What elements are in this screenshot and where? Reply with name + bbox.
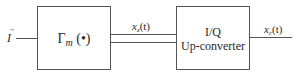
xc-arg: (t) <box>272 23 282 35</box>
input-connector <box>16 38 37 39</box>
output-connector <box>250 37 292 38</box>
gamma-symbol: Γ <box>57 31 65 46</box>
input-vector-arrow: → <box>8 26 15 33</box>
iq-upconverter-block: I/Q Up-converter <box>176 6 250 70</box>
connector-upper <box>111 34 176 35</box>
signal-xc-label: xc(t) <box>264 24 282 37</box>
iq-label: I/Q <box>177 26 249 40</box>
gamma-subscript: m <box>66 37 73 48</box>
input-symbol: I <box>7 31 11 45</box>
gamma-block: Γm (•) <box>37 6 111 70</box>
gamma-argument: (•) <box>76 31 90 46</box>
gamma-block-label: Γm (•) <box>38 31 110 49</box>
signal-xz-label: xz(t) <box>132 21 150 34</box>
connector-lower <box>111 42 176 43</box>
input-label: → I <box>7 32 11 44</box>
upconverter-label: Up-converter <box>177 40 249 54</box>
xz-arg: (t) <box>140 20 150 32</box>
